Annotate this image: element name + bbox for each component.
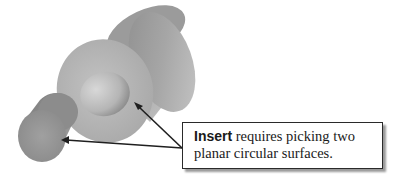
- callout-box: Insert requires picking two planar circu…: [182, 122, 383, 169]
- small-end-face: [18, 110, 66, 162]
- callout-text-1: requires picking two: [232, 128, 355, 144]
- callout-line-1: Insert requires picking two: [194, 128, 382, 145]
- cad-figure: Insert requires picking two planar circu…: [0, 0, 403, 185]
- insert-keyword: Insert: [194, 128, 232, 144]
- callout-line-2: planar circular surfaces.: [194, 145, 382, 162]
- small-cylinder: [18, 93, 78, 162]
